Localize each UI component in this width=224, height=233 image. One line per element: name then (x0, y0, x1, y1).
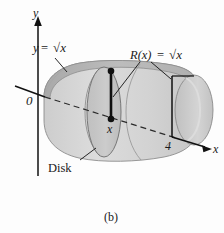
radius-top-point (108, 68, 115, 75)
x-tick-label-4: 4 (165, 139, 171, 153)
y-axis-label: y (32, 6, 39, 20)
radius-equation-label: R(x) = √x (129, 47, 182, 62)
curve-equation-label: y = √x (31, 40, 66, 55)
radius-equation-r: R(x) (129, 48, 152, 62)
solid-of-revolution-figure: 0 y x 4 x (0, 0, 224, 233)
curve-equation-equals: = (41, 41, 48, 55)
curve-equation-sqrt: √x (53, 40, 66, 55)
x-axis-label: x (212, 142, 219, 156)
sample-point-label: x (106, 122, 113, 136)
figure-container: 0 y x 4 x (0, 0, 224, 233)
radius-equation-equals: = (157, 48, 164, 62)
figure-caption: (b) (104, 210, 118, 224)
x-axis-arrowhead (202, 145, 212, 152)
disk-face (87, 67, 121, 157)
radius-equation-sqrt: √x (169, 47, 182, 62)
curve-equation-y: y (31, 41, 39, 55)
origin-label: 0 (26, 93, 33, 108)
disk-label: Disk (48, 161, 72, 175)
